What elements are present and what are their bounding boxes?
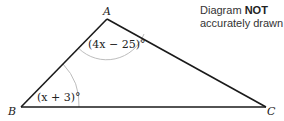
note-prefix: Diagram	[200, 4, 245, 16]
note-emphasis: NOT	[245, 4, 268, 16]
vertex-label-a: A	[102, 5, 111, 18]
vertex-label-c: C	[267, 105, 276, 118]
angle-label-b: (x + 3)°	[37, 91, 81, 104]
angle-label-a: (4x − 25)°	[88, 38, 146, 51]
not-to-scale-note: Diagram NOT accurately drawn	[200, 4, 283, 30]
vertex-label-b: B	[7, 105, 16, 118]
note-line2: accurately drawn	[200, 17, 283, 30]
edge-ac	[107, 19, 266, 107]
